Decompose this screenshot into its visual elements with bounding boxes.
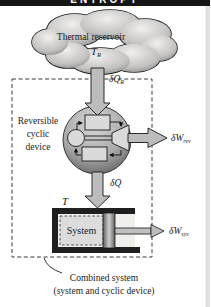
svg-text:Combined system: Combined system — [70, 273, 139, 283]
system-label: System — [67, 225, 97, 236]
piston-rod — [115, 228, 151, 234]
cylinder-wall-top — [52, 208, 135, 214]
work-sys-label: δWsys — [169, 226, 189, 237]
caption-leader-line — [44, 258, 62, 273]
work-rev-arrow — [128, 128, 167, 148]
heat-exchanger-top — [85, 115, 110, 130]
heat-sys-label: δQ — [110, 178, 121, 188]
svg-text:cyclic: cyclic — [27, 129, 50, 139]
system-temp-label: T — [62, 196, 69, 207]
reservoir-label: Thermal reservoir — [57, 32, 126, 42]
pump-circle — [68, 130, 85, 147]
diagram-canvas: Thermal reservoir TR δQR δWrev δQ Rev — [0, 0, 210, 307]
figure-entropy-clausius: ENTROPY — [0, 0, 210, 307]
heat-sys-arrow — [85, 172, 110, 208]
device-label: Reversible cyclic device — [18, 116, 59, 152]
svg-text:device: device — [26, 142, 51, 152]
work-rev-label: δWrev — [171, 133, 191, 144]
page-edge — [206, 6, 211, 307]
figure-caption: Combined system (system and cyclic devic… — [53, 273, 154, 297]
cylinder-wall-left — [52, 208, 58, 253]
svg-text:Reversible: Reversible — [18, 116, 59, 126]
heat-exchanger-bottom — [82, 147, 107, 161]
cylinder-wall-bottom — [52, 247, 140, 253]
piston-cylinder: System — [52, 208, 164, 253]
heat-in-label: δQR — [109, 74, 124, 85]
svg-text:(system and cyclic device): (system and cyclic device) — [53, 286, 154, 297]
work-sys-arrowhead — [151, 225, 164, 238]
piston — [103, 213, 115, 248]
